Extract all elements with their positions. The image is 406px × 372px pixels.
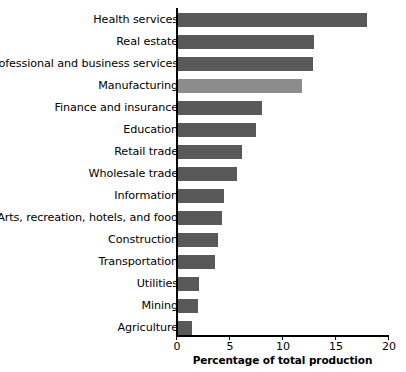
x-axis-tick-label: 10 (268, 340, 298, 354)
category-label: Manufacturing (0, 76, 178, 96)
bar-construction (176, 233, 218, 247)
chart-row: Transportation (0, 252, 406, 272)
chart-row: Information (0, 186, 406, 206)
category-label: Retail trade (0, 142, 178, 162)
category-label: Professional and business services (0, 54, 178, 74)
bar-wrap (176, 79, 302, 93)
bar-wrap (176, 277, 199, 291)
x-axis-tick-label: 5 (215, 340, 245, 354)
bar-health-services (176, 13, 367, 27)
bar-wrap (176, 233, 218, 247)
chart-row: Utilities (0, 274, 406, 294)
category-label: Construction (0, 230, 178, 250)
category-label: Agriculture (0, 318, 178, 338)
bar-mining (176, 299, 198, 313)
bar-wrap (176, 57, 313, 71)
bar-wrap (176, 321, 192, 335)
chart-row: Education (0, 120, 406, 140)
bar-wrap (176, 35, 314, 49)
bar-utilities (176, 277, 199, 291)
bar-arts-recreation-hotels-and-food (176, 211, 222, 225)
category-label: Arts, recreation, hotels, and food (0, 208, 178, 228)
bar-agriculture (176, 321, 192, 335)
chart-row: Health services (0, 10, 406, 30)
category-label: Health services (0, 10, 178, 30)
bar-wrap (176, 189, 224, 203)
chart-row: Arts, recreation, hotels, and food (0, 208, 406, 228)
x-axis-tick-label: 20 (374, 340, 404, 354)
bar-wrap (176, 167, 237, 181)
bar-education (176, 123, 256, 137)
bar-wholesale-trade (176, 167, 237, 181)
bar-wrap (176, 299, 198, 313)
chart-row: Finance and insurance (0, 98, 406, 118)
x-axis-tick-label: 15 (321, 340, 351, 354)
bar-finance-and-insurance (176, 101, 262, 115)
bar-wrap (176, 211, 222, 225)
category-label: Education (0, 120, 178, 140)
category-label: Utilities (0, 274, 178, 294)
bar-wrap (176, 101, 262, 115)
category-label: Wholesale trade (0, 164, 178, 184)
chart-row: Professional and business services (0, 54, 406, 74)
chart-row: Real estate (0, 32, 406, 52)
bar-professional-and-business-services (176, 57, 313, 71)
x-axis-tick-label: 0 (162, 340, 192, 354)
x-axis-title: Percentage of total production (176, 354, 389, 366)
category-label: Information (0, 186, 178, 206)
chart-row: Construction (0, 230, 406, 250)
category-label: Real estate (0, 32, 178, 52)
bar-wrap (176, 13, 367, 27)
bar-wrap (176, 255, 215, 269)
bar-information (176, 189, 224, 203)
plot-area: Health services Real estate Professional… (0, 0, 406, 336)
bar-wrap (176, 145, 242, 159)
bar-manufacturing (176, 79, 302, 93)
chart-row: Manufacturing (0, 76, 406, 96)
bar-real-estate (176, 35, 314, 49)
y-axis-line (176, 8, 178, 335)
chart-row: Mining (0, 296, 406, 316)
chart-row: Retail trade (0, 142, 406, 162)
category-label: Finance and insurance (0, 98, 178, 118)
bar-wrap (176, 123, 256, 137)
chart-row: Wholesale trade (0, 164, 406, 184)
bar-retail-trade (176, 145, 242, 159)
category-label: Mining (0, 296, 178, 316)
category-label: Transportation (0, 252, 178, 272)
bar-chart: Health services Real estate Professional… (0, 0, 406, 372)
bar-transportation (176, 255, 215, 269)
